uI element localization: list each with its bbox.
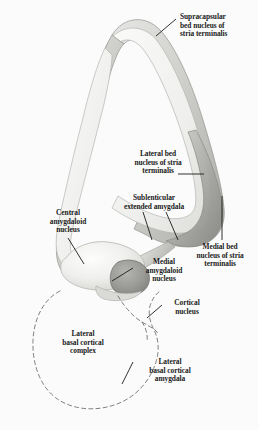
cortical-nucleus-lower-edge <box>142 322 147 342</box>
label-central-amygdaloid-nucleus: Central amygdaloid nucleus <box>36 209 100 235</box>
stria-left-limb-inner <box>56 48 112 273</box>
leader-lateral-basal-cortical-amygdala <box>122 362 133 384</box>
label-lateral-bed-nucleus: Lateral bed nucleus of stria terminalis <box>120 150 196 176</box>
label-cortical-nucleus: Cortical nucleus <box>162 299 212 316</box>
cortical-nucleus-outline <box>118 296 158 334</box>
label-medial-amygdaloid-nucleus: Medial amygdaloid nucleus <box>133 258 195 284</box>
label-supracapsular-bed-nucleus: Supracapsular bed nucleus of stria termi… <box>180 13 256 39</box>
label-lateral-basal-cortical-amygdala: Lateral basal cortical amygdala <box>133 358 207 384</box>
leader-supracapsular <box>156 19 176 36</box>
label-lateral-basal-cortical-complex: Lateral basal cortical complex <box>46 330 120 356</box>
label-sublenticular-extended-amygdala: Sublenticular extended amygdala <box>107 194 201 211</box>
